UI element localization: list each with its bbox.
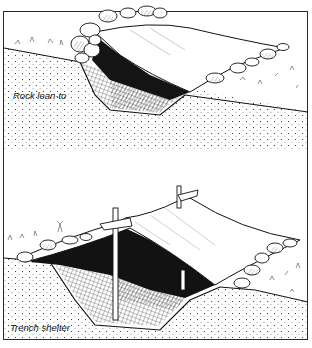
shelter-illustration bbox=[0, 0, 312, 348]
trench-shelter-drawing bbox=[4, 186, 308, 340]
trench-shelter-label: Trench shelter bbox=[10, 322, 70, 333]
rock-lean-to-drawing bbox=[4, 6, 308, 150]
rock-lean-to-label: Rock lean-to bbox=[13, 90, 66, 101]
